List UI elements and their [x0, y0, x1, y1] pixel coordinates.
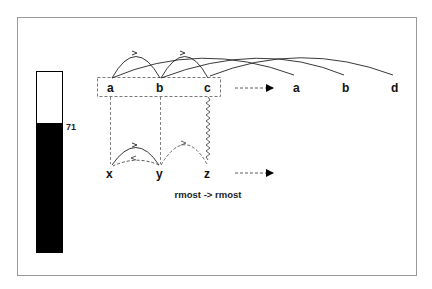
node-b: b [156, 81, 163, 95]
diagram-canvas: 71 a b c a b d x y z [0, 0, 432, 289]
node-c: c [204, 81, 211, 95]
bottom-arcs [112, 141, 207, 166]
top-long-arcs [112, 58, 393, 78]
node-a: a [107, 81, 114, 95]
node-y: y [156, 167, 163, 181]
zigzag-connector [206, 97, 210, 160]
vertical-connectors [111, 97, 211, 164]
caption: rmost -> rmost [175, 189, 243, 200]
top-short-arcs [112, 51, 208, 78]
frame-border [18, 18, 417, 276]
node-x: x [106, 167, 113, 181]
level-bar: 71 [37, 72, 77, 253]
level-bar-fill [37, 123, 63, 253]
node-z: z [204, 167, 210, 181]
level-bar-value: 71 [66, 122, 76, 132]
result-node-d: d [391, 81, 398, 95]
result-node-a: a [293, 81, 300, 95]
result-node-b: b [342, 81, 349, 95]
